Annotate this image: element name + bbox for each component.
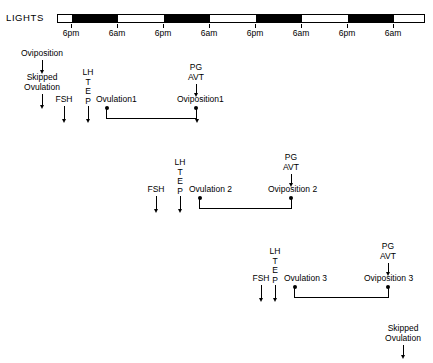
hormone-stack-2: LH T E P	[175, 158, 186, 196]
bracket-right-cap	[386, 285, 390, 289]
arrow-hormones-2	[180, 196, 181, 209]
bracket-left-cap	[198, 196, 202, 200]
skipped-ovulation-0-line1: Skipped	[27, 72, 58, 82]
skipped-ovulation-0-line2: Ovulation	[24, 82, 60, 92]
arrow-fsh-1	[64, 106, 65, 119]
bracket-left-cap	[105, 106, 109, 110]
fsh-2-label: FSH	[148, 184, 165, 194]
arrow-pg-avt-1	[196, 84, 197, 93]
dark-phase-segment	[164, 15, 210, 22]
bracket-right-cap	[194, 106, 198, 110]
arrow-hormones-1	[88, 106, 89, 119]
oviposition-0-label: Oviposition	[21, 48, 63, 58]
dark-phase-segment	[72, 15, 118, 22]
oviposition-3-label: Oviposition 3	[364, 273, 413, 283]
bracket-ovulation-to-oviposition-2	[199, 199, 292, 209]
arrow-skipped-ovulation-0-out	[42, 94, 43, 105]
p-3-label: P	[270, 276, 281, 286]
p-2-label: P	[175, 187, 186, 197]
avt-3-label: AVT	[380, 251, 396, 261]
axis-tick-label: 6am	[293, 28, 310, 38]
ovulation-2-label: Ovulation 2	[189, 184, 232, 194]
axis-tick-label: 6pm	[63, 28, 80, 38]
axis-tick-label: 6pm	[339, 28, 356, 38]
pg-2-label: PG	[285, 152, 297, 162]
lights-track	[57, 14, 425, 23]
avt-1-label: AVT	[188, 72, 204, 82]
skipped-ovulation-4-line2: Ovulation	[385, 333, 421, 343]
hormone-stack-3: LH T E P	[270, 247, 281, 285]
fsh-1-label: FSH	[56, 94, 73, 104]
bracket-ovulation-to-oviposition-3	[294, 288, 389, 298]
axis-tick-label: 6am	[201, 28, 218, 38]
p-1-label: P	[83, 97, 94, 107]
avt-2-label: AVT	[283, 162, 299, 172]
ovulation-3-label: Ovulation 3	[284, 273, 327, 283]
skipped-ovulation-4-line1: Skipped	[388, 323, 419, 333]
arrow-pg-avt-3	[388, 263, 389, 272]
arrow-pg-avt-2	[291, 174, 292, 183]
bracket-ovulation-to-oviposition-1	[106, 109, 197, 119]
arrow-fsh-3	[261, 285, 262, 298]
oviposition-2-label: Oviposition 2	[268, 184, 317, 194]
arrow-fsh-2	[156, 196, 157, 209]
arrow-hormones-3	[275, 285, 276, 298]
oviposition-1-label: Oviposition1	[177, 94, 224, 104]
axis-tick-label: 6am	[385, 28, 402, 38]
pg-3-label: PG	[382, 241, 394, 251]
hormone-stack-1: LH T E P	[83, 68, 94, 106]
axis-tick-label: 6pm	[247, 28, 264, 38]
arrow-oviposition-to-skipped	[42, 60, 43, 70]
figure-canvas: LIGHTS 6pm 6am 6pm 6am 6pm 6am 6pm 6am O…	[0, 0, 433, 363]
pg-1-label: PG	[190, 62, 202, 72]
ovulation-1-label: Ovulation1	[96, 94, 137, 104]
axis-tick-label: 6pm	[155, 28, 172, 38]
dark-phase-segment	[348, 15, 394, 22]
dark-phase-segment	[256, 15, 302, 22]
lights-axis-label: LIGHTS	[6, 12, 44, 23]
fsh-3-label: FSH	[253, 273, 270, 283]
arrow-skipped-ovulation-4	[403, 345, 404, 355]
bracket-right-cap	[289, 196, 293, 200]
axis-tick-label: 6am	[109, 28, 126, 38]
bracket-left-cap	[293, 285, 297, 289]
